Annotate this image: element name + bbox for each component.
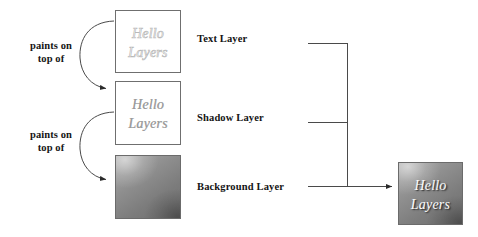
layer-content-line-2: Layers <box>116 43 180 62</box>
layer-box-background-layer[interactable] <box>115 155 181 219</box>
layer-content-text: Hello Layers <box>116 24 180 62</box>
composite-line-2: Layers <box>399 195 462 214</box>
layer-content-text: Hello Layers <box>116 95 180 133</box>
composite-result-text: Hello Layers <box>399 176 462 214</box>
composite-line-1: Hello <box>399 176 462 195</box>
layer-label-shadow-layer: Shadow Layer <box>197 112 264 123</box>
annotation-paints-on-top-of-1: paints on top of <box>3 40 99 65</box>
layer-label-background-layer: Background Layer <box>197 181 284 192</box>
annotation-line-2: top of <box>3 142 99 155</box>
annotation-line-2: top of <box>3 53 99 66</box>
diagram-canvas: paints on top of paints on top of Hello … <box>0 0 478 237</box>
layer-content-line-1: Hello <box>116 24 180 43</box>
annotation-line-1: paints on <box>3 40 99 53</box>
annotation-line-1: paints on <box>3 129 99 142</box>
annotation-paints-on-top-of-2: paints on top of <box>3 129 99 154</box>
layer-box-shadow-layer[interactable]: Hello Layers <box>115 81 181 145</box>
gradient-fill <box>116 156 180 218</box>
layer-content-line-2: Layers <box>116 114 180 133</box>
layer-box-text-layer[interactable]: Hello Layers <box>115 10 181 73</box>
composite-result-box[interactable]: Hello Layers <box>398 162 463 225</box>
layer-label-text-layer: Text Layer <box>197 33 247 44</box>
layer-content-line-1: Hello <box>116 95 180 114</box>
